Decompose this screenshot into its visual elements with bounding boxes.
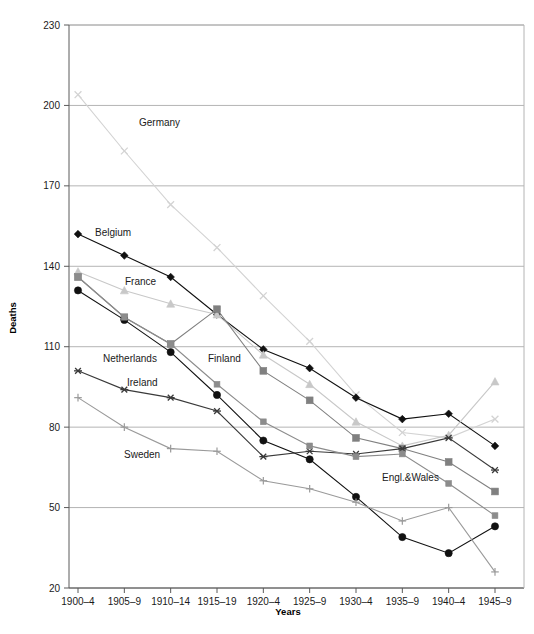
data-point-square-small: [260, 419, 266, 425]
data-point-square: [260, 367, 267, 374]
x-tick-label: 1945–9: [478, 596, 512, 607]
series-group: [74, 91, 499, 575]
data-point-diamond: [491, 442, 499, 450]
data-point-x: [492, 416, 499, 423]
data-point-circle: [74, 287, 81, 294]
data-point-plus: [306, 485, 314, 493]
data-point-square: [353, 434, 360, 441]
y-tick-label: 80: [49, 422, 61, 433]
data-point-plus: [167, 445, 175, 453]
y-tick-label: 170: [43, 180, 60, 191]
data-point-circle: [491, 523, 498, 530]
data-point-star: [167, 395, 175, 401]
x-axis-ticks-group: 1900–41905–91910–141915–191920–41925–919…: [61, 588, 512, 607]
gridlines-group: [69, 25, 524, 588]
y-axis-ticks-group: 205080110140170200230: [43, 20, 69, 594]
x-tick-label: 1940–4: [432, 596, 466, 607]
x-tick-label: 1930–4: [339, 596, 373, 607]
series-label-belgium: Belgium: [95, 227, 131, 238]
data-point-star: [491, 467, 499, 473]
y-tick-label: 110: [44, 341, 60, 352]
series-label-finland: Finland: [208, 353, 241, 364]
data-point-plus: [121, 423, 129, 431]
data-point-x: [167, 201, 174, 208]
data-point-square: [214, 306, 221, 313]
series-netherlands: [74, 287, 498, 557]
y-axis-title: Deaths: [7, 302, 18, 334]
data-point-star: [306, 448, 314, 454]
series-label-netherlands: Netherlands: [103, 353, 157, 364]
data-point-diamond: [445, 410, 453, 418]
y-tick-label: 140: [43, 261, 60, 272]
data-point-square-small: [168, 341, 174, 347]
x-axis-title: Years: [275, 606, 300, 617]
y-tick-label: 230: [43, 20, 60, 31]
data-point-circle: [306, 456, 313, 463]
data-point-square-small: [399, 451, 405, 457]
x-tick-label: 1900–4: [61, 596, 95, 607]
data-point-circle: [399, 533, 406, 540]
data-point-x: [306, 338, 313, 345]
data-point-square: [306, 397, 313, 404]
data-point-circle: [213, 391, 220, 398]
y-tick-label: 20: [49, 583, 61, 594]
data-point-x: [260, 292, 267, 299]
line-chart: 205080110140170200230 1900–41905–91910–1…: [0, 0, 534, 634]
plot-frame-group: [69, 25, 524, 588]
series-label-germany: Germany: [139, 117, 180, 128]
data-point-plus: [213, 447, 221, 455]
data-point-x: [121, 148, 128, 155]
data-point-plus: [491, 568, 499, 576]
data-point-square-small: [492, 513, 498, 519]
data-point-plus: [260, 477, 268, 485]
data-point-square-small: [214, 381, 220, 387]
data-point-plus: [445, 504, 453, 512]
data-point-plus: [74, 394, 82, 402]
data-point-square-small: [446, 481, 452, 487]
data-point-square-small: [307, 443, 313, 449]
series-label-engl-wales: Engl.&Wales: [382, 472, 439, 483]
x-tick-label: 1905–9: [108, 596, 142, 607]
data-point-square-small: [353, 454, 359, 460]
data-point-triangle: [306, 380, 314, 387]
data-point-circle: [445, 550, 452, 557]
series-line: [78, 290, 495, 553]
data-point-plus: [399, 517, 407, 525]
series-label-ireland: Ireland: [127, 377, 158, 388]
data-point-star: [259, 454, 267, 460]
series-belgium: [74, 230, 499, 449]
data-point-square: [492, 488, 499, 495]
y-tick-label: 200: [43, 100, 60, 111]
data-point-triangle: [120, 286, 128, 293]
data-point-square-small: [75, 274, 81, 280]
data-point-square-small: [121, 314, 127, 320]
x-tick-label: 1910–14: [151, 596, 190, 607]
data-point-x: [214, 244, 221, 251]
x-tick-label: 1915–19: [198, 596, 237, 607]
data-point-x: [75, 91, 82, 98]
data-point-triangle: [491, 378, 499, 385]
series-line: [78, 398, 495, 572]
data-point-diamond: [306, 364, 314, 372]
data-point-square: [445, 459, 452, 466]
x-tick-label: 1935–9: [386, 596, 420, 607]
chart-canvas: 205080110140170200230 1900–41905–91910–1…: [0, 0, 534, 634]
series-label-france: France: [125, 276, 157, 287]
data-point-diamond: [399, 415, 407, 423]
data-point-diamond: [352, 394, 360, 402]
data-point-circle: [260, 437, 267, 444]
data-point-circle: [167, 348, 174, 355]
data-point-star: [213, 408, 221, 414]
data-point-diamond: [74, 230, 82, 238]
series-label-sweden: Sweden: [124, 449, 160, 460]
data-point-star: [74, 368, 82, 374]
data-point-diamond: [121, 252, 129, 260]
y-tick-label: 50: [49, 502, 61, 513]
